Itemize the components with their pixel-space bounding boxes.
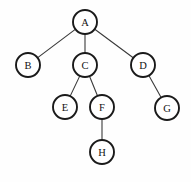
tree-node-label-f: F bbox=[99, 102, 105, 113]
tree-node-e[interactable]: E bbox=[53, 95, 77, 119]
tree-edges-group bbox=[38, 30, 161, 140]
tree-diagram: ABCDEFGH bbox=[0, 0, 191, 182]
tree-node-c[interactable]: C bbox=[73, 53, 97, 77]
tree-node-d[interactable]: D bbox=[131, 53, 155, 77]
tree-node-label-g: G bbox=[163, 103, 171, 114]
tree-node-label-d: D bbox=[139, 60, 147, 71]
tree-node-label-c: C bbox=[81, 60, 88, 71]
tree-nodes-group: ABCDEFGH bbox=[16, 10, 179, 164]
tree-node-b[interactable]: B bbox=[16, 53, 40, 77]
tree-node-g[interactable]: G bbox=[155, 96, 179, 120]
tree-node-h[interactable]: H bbox=[90, 140, 114, 164]
tree-node-label-b: B bbox=[24, 60, 31, 71]
tree-node-label-a: A bbox=[81, 17, 89, 28]
tree-edge-d-g bbox=[149, 76, 161, 97]
tree-node-label-e: E bbox=[62, 102, 68, 113]
tree-node-a[interactable]: A bbox=[73, 10, 97, 34]
tree-edge-a-b bbox=[38, 30, 75, 58]
tree-node-f[interactable]: F bbox=[90, 95, 114, 119]
tree-node-label-h: H bbox=[98, 147, 106, 158]
tree-diagram-canvas: ABCDEFGH bbox=[0, 0, 191, 182]
tree-edge-c-e bbox=[70, 76, 79, 95]
tree-edge-c-f bbox=[90, 77, 98, 96]
tree-edge-a-d bbox=[95, 30, 133, 58]
